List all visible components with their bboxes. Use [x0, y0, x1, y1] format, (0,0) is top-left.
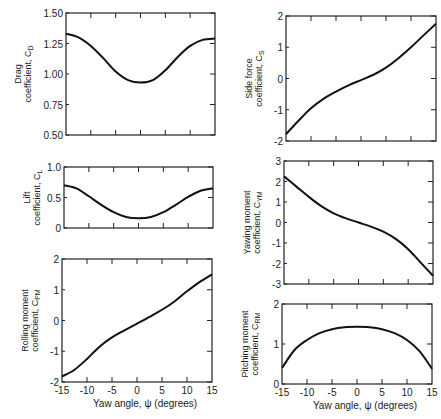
x-tick-label: -10 [80, 385, 95, 396]
x-tick-label: 10 [181, 385, 193, 396]
x-tick-label: 15 [426, 387, 438, 398]
chart-lift: 00.51.0Liftcoefficient, CL [22, 162, 213, 234]
y-tick-label: 1 [273, 339, 279, 350]
y-tick-label: -3 [272, 279, 281, 290]
y-axis-label: Rolling momentcoefficient, CPM [20, 289, 41, 352]
y-tick-label: 0.5 [47, 193, 61, 204]
y-tick-label: 3 [275, 156, 281, 167]
chart-side: -2-1012Side forcecoefficient, CS [244, 11, 436, 147]
y-axis-label: Side forcecoefficient, CS [244, 50, 265, 107]
y-tick-label: 1.00 [44, 69, 64, 80]
x-tick-label: 10 [401, 387, 413, 398]
y-tick-label: 2 [275, 177, 281, 188]
x-tick-label: 0 [354, 387, 360, 398]
data-curve [62, 274, 212, 376]
plot-frame [62, 259, 212, 382]
y-tick-label: 1.25 [44, 39, 64, 50]
y-tick-label: -2 [274, 136, 283, 147]
y-tick-label: -1 [272, 238, 281, 249]
x-tick-label: -15 [275, 387, 290, 398]
y-tick-label: -2 [272, 259, 281, 270]
x-tick-label: 5 [379, 387, 385, 398]
chart-yawing: -3-2-10123Yawing momentcoefficient, CYM [242, 156, 433, 290]
y-tick-label: 0 [275, 218, 281, 229]
y-tick-label: 1 [277, 42, 283, 53]
y-tick-label: -1 [274, 105, 283, 116]
y-axis-label: Dragcoefficient, CD [13, 46, 34, 103]
plot-frame [66, 13, 215, 135]
data-curve [64, 185, 213, 218]
y-axis-label: Pitching momentcoefficient, CRM [240, 310, 261, 378]
plot-frame [282, 304, 432, 384]
y-tick-label: 0 [277, 74, 283, 85]
y-tick-label: 1.50 [44, 8, 64, 19]
y-tick-label: 2 [277, 11, 283, 22]
y-tick-label: 0.50 [44, 130, 64, 141]
x-tick-label: -5 [108, 385, 117, 396]
x-tick-label: -15 [55, 385, 70, 396]
y-tick-label: 2 [53, 254, 59, 265]
y-tick-label: 1 [53, 285, 59, 296]
data-curve [286, 24, 436, 134]
aerodynamic-coefficients-figure: 0.500.751.001.251.50Dragcoefficient, CD0… [0, 0, 441, 419]
x-tick-label: 15 [206, 385, 218, 396]
y-tick-label: 0 [53, 316, 59, 327]
y-axis-label: Liftcoefficient, CL [22, 170, 43, 226]
plot-frame [286, 16, 436, 141]
data-curve [284, 176, 433, 275]
x-tick-label: -10 [300, 387, 315, 398]
y-tick-label: 1 [275, 197, 281, 208]
y-tick-label: 0.75 [44, 100, 64, 111]
chart-pitching: 012-15-10-5051015Yaw angle, ψ (degrees)P… [240, 299, 438, 411]
x-tick-label: 5 [159, 385, 165, 396]
y-tick-label: 1.0 [47, 162, 61, 173]
chart-drag: 0.500.751.001.251.50Dragcoefficient, CD [13, 8, 215, 141]
data-curve [282, 327, 432, 369]
chart-rolling: -2-1012-15-10-5051015Yaw angle, ψ (degre… [20, 254, 218, 409]
y-tick-label: 0 [55, 223, 61, 234]
x-tick-label: -5 [328, 387, 337, 398]
x-axis-label: Yaw angle, ψ (degrees) [93, 398, 197, 409]
y-tick-label: 2 [273, 299, 279, 310]
data-curve [66, 34, 215, 83]
x-axis-label: Yaw angle, ψ (degrees) [313, 400, 417, 411]
y-tick-label: -1 [50, 346, 59, 357]
x-tick-label: 0 [134, 385, 140, 396]
y-axis-label: Yawing momentcoefficient, CYM [242, 190, 263, 254]
